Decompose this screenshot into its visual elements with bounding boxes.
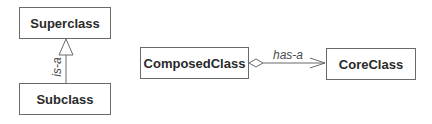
- superclass-name: Superclass: [30, 16, 99, 31]
- subclass-name: Subclass: [36, 92, 93, 107]
- hollow-triangle-arrowhead-icon: [59, 39, 73, 55]
- has-a-label: has-a: [273, 48, 303, 62]
- core-class-box: CoreClass: [326, 48, 416, 80]
- is-a-label: is-a: [50, 55, 64, 79]
- composed-class-box: ComposedClass: [140, 47, 249, 79]
- uml-class-diagram: Superclass Subclass is-a ComposedClass C…: [0, 0, 432, 124]
- subclass-box: Subclass: [19, 83, 111, 115]
- superclass-box: Superclass: [19, 7, 111, 39]
- composed-class-name: ComposedClass: [144, 56, 246, 71]
- hollow-diamond-icon: [249, 59, 263, 67]
- core-class-name: CoreClass: [339, 57, 403, 72]
